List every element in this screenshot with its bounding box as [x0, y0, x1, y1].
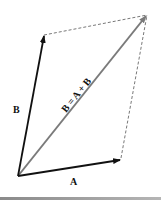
bottom-divider: [0, 197, 161, 200]
vector-a-arrow: [18, 160, 120, 176]
vector-b-arrow: [18, 36, 44, 176]
dashed-edge-top: [44, 15, 147, 35]
label-a: A: [70, 176, 78, 187]
label-b: B: [13, 104, 20, 115]
label-resultant: B = A + B: [59, 75, 93, 114]
vector-diagram: B A B = A + B: [0, 0, 161, 200]
dashed-edge-right: [121, 15, 147, 158]
